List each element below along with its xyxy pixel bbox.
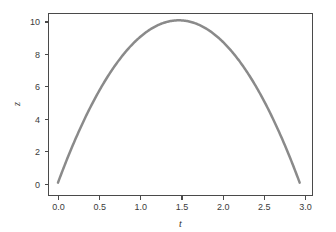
- y-tick-label: 6: [35, 82, 40, 92]
- plot-canvas: 0.0 0.5 1.0 1.5 2.0 2.5 3.0 0 2 4 6 8 10: [0, 0, 336, 232]
- y-tick-label: 4: [35, 115, 40, 125]
- x-axis-title: t: [179, 218, 182, 229]
- y-tick-label: 0: [35, 180, 40, 190]
- x-tick-label: 0.0: [52, 202, 65, 212]
- y-tick-label: 8: [35, 50, 40, 60]
- y-tick-label: 10: [30, 17, 40, 27]
- x-tick-label: 0.5: [93, 202, 106, 212]
- x-tick-label: 1.5: [176, 202, 189, 212]
- x-tick-label: 1.0: [135, 202, 148, 212]
- y-tick-label: 2: [35, 147, 40, 157]
- figure-background: [0, 0, 336, 232]
- chart-figure: 0.0 0.5 1.0 1.5 2.0 2.5 3.0 0 2 4 6 8 10: [0, 0, 336, 232]
- y-axis-title: z: [11, 102, 22, 107]
- x-tick-label: 2.5: [258, 202, 271, 212]
- x-tick-label: 2.0: [217, 202, 230, 212]
- x-tick-label: 3.0: [299, 202, 312, 212]
